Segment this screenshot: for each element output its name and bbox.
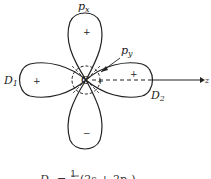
d2-label: D2 xyxy=(150,89,165,103)
d1-label: D1 xyxy=(3,74,18,88)
center-carbon-label: C xyxy=(81,74,89,87)
orbital-diagram: px py D1 D2 C z + − + + + D1=1(2s + 2pz) xyxy=(0,0,211,179)
d1-sign: + xyxy=(33,76,41,86)
hybrid-formula: D1=1(2s + 2pz) xyxy=(39,169,136,179)
px-lower-sign: − xyxy=(83,128,91,138)
small-plus-sign: + xyxy=(97,77,104,86)
px-upper-lobe xyxy=(68,13,102,80)
px-upper-sign: + xyxy=(83,27,91,37)
d1-lobe xyxy=(20,63,87,97)
py-label: py xyxy=(121,44,133,58)
px-label: px xyxy=(78,0,90,14)
px-lower-lobe xyxy=(68,80,102,149)
d2-sign: + xyxy=(130,69,138,79)
z-axis-label: z xyxy=(204,76,210,85)
